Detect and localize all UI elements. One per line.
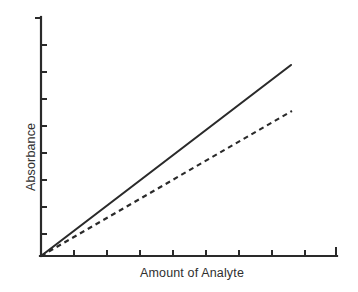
x-axis-ticks — [74, 247, 336, 256]
series-line-solid — [41, 65, 291, 256]
series-line-dashed — [41, 111, 292, 256]
data-series-group — [41, 65, 292, 256]
plot-area — [0, 0, 358, 292]
y-axis-label: Absorbance — [24, 123, 38, 191]
chart-container: Absorbance Amount of Analyte — [0, 0, 358, 292]
x-axis-label: Amount of Analyte — [0, 266, 358, 280]
axis-group — [40, 17, 337, 256]
